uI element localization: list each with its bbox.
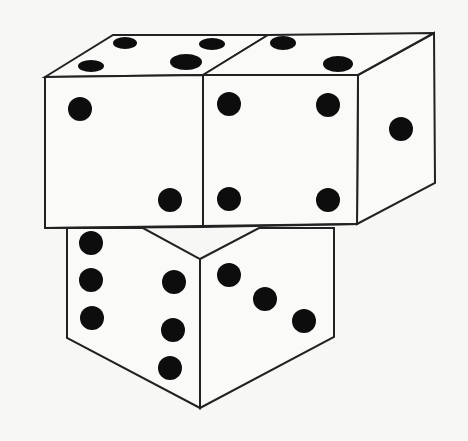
pip [79,231,103,255]
pip [217,187,241,211]
pip [316,93,340,117]
pip [170,54,202,70]
pip [253,287,277,311]
pip [113,37,137,49]
pip [270,36,296,50]
pip [68,97,92,121]
pip [389,117,413,141]
pip [217,92,241,116]
pip [158,188,182,212]
pip [162,270,186,294]
pip [158,356,182,380]
pip [217,263,241,287]
pip [161,318,185,342]
dice-diagram [0,0,468,441]
dice-drawing [0,0,468,441]
pip [78,60,104,72]
pip [292,309,316,333]
pip [80,306,104,330]
pip [316,188,340,212]
pip [79,268,103,292]
pip [323,56,353,72]
bottom-die [67,228,334,408]
pip [199,38,225,50]
